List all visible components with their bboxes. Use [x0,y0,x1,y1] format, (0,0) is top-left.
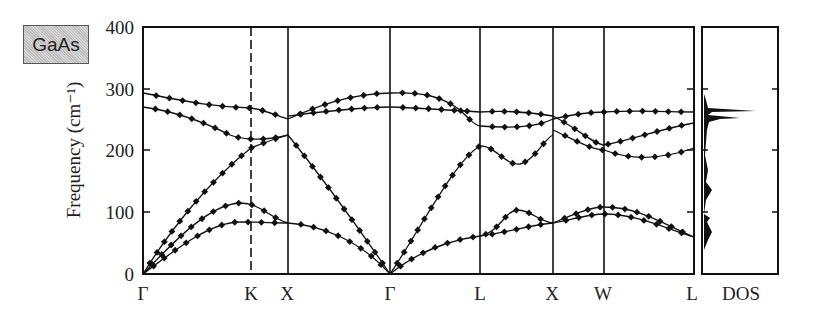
data-point-diamond [153,92,160,99]
x-label-x-1: X [280,283,294,304]
data-point-diamond [621,206,628,213]
x-label-w: W [594,283,612,304]
data-point-diamond [488,146,495,153]
data-point-diamond [260,140,267,147]
data-point-diamond [513,226,520,233]
data-point-diamond [586,143,593,150]
data-point-diamond [522,158,529,165]
data-point-diamond [538,111,545,118]
data-point-diamond [152,106,159,113]
data-point-diamond [176,112,183,119]
data-point-diamond [272,214,279,221]
y-tick-100: 100 [106,202,135,223]
data-point-diamond [361,105,368,112]
dos-label: DOS [722,283,760,304]
data-point-diamond [654,128,661,135]
x-label-gamma-2: Γ [385,283,396,304]
experimental-points [146,89,686,269]
data-point-diamond [571,125,578,132]
data-point-diamond [436,95,443,102]
data-point-diamond [526,122,533,129]
data-point-diamond [574,138,581,145]
data-point-diamond [613,108,620,115]
data-point-diamond [601,109,608,116]
data-point-diamond [218,222,225,229]
data-point-diamond [597,204,604,211]
x-label-x-2: X [545,283,559,304]
data-point-diamond [617,138,624,145]
data-point-diamond [562,113,569,120]
data-point-diamond [538,120,545,127]
data-point-diamond [537,221,544,228]
phonon-dispersion-chart: 0 100 200 300 400 Frequency (cm⁻¹) Γ K X… [0,0,817,317]
data-point-diamond [501,108,508,115]
data-point-diamond [639,108,646,115]
data-point-diamond [652,153,659,160]
y-tick-300: 300 [106,79,135,100]
data-point-diamond [374,104,381,111]
data-point-diamond [164,108,171,115]
x-label-gamma-1: Γ [138,283,149,304]
data-point-diamond [628,214,635,221]
data-point-diamond [249,202,256,209]
data-point-diamond [247,136,254,143]
data-point-diamond [501,228,508,235]
data-point-diamond [222,203,229,210]
data-point-diamond [258,219,265,226]
data-point-diamond [625,153,632,160]
data-point-diamond [373,90,380,97]
data-point-diamond [464,108,471,115]
data-point-diamond [298,221,305,228]
data-point-diamond [629,135,636,142]
data-point-diamond [206,101,213,108]
data-point-diamond [346,238,353,245]
data-point-diamond [489,108,496,115]
data-point-diamond [640,217,647,224]
data-point-diamond [457,236,464,243]
data-point-diamond [645,213,652,220]
data-point-diamond [414,227,421,234]
data-point-diamond [424,92,431,99]
y-tick-400: 400 [106,17,135,38]
data-point-diamond [513,207,520,214]
data-point-diamond [612,150,619,157]
data-point-diamond [179,97,186,104]
data-point-diamond [411,90,418,97]
data-point-diamond [438,106,445,113]
data-point-diamond [206,226,213,233]
data-point-diamond [678,108,685,115]
data-point-diamond [513,108,520,115]
dos-frame [702,27,778,274]
data-point-diamond [192,99,199,106]
data-point-diamond [432,244,439,251]
data-point-diamond [347,94,354,101]
data-point-diamond [561,119,568,126]
x-label-l-1: L [474,283,486,304]
data-point-diamond [233,104,240,111]
data-point-diamond [585,206,592,213]
plot-frame [143,27,694,274]
data-point-diamond [231,219,238,226]
data-point-diamond [588,109,595,116]
data-point-diamond [360,92,367,99]
data-point-diamond [615,212,622,219]
data-point-diamond [235,200,242,207]
data-point-diamond [482,231,489,238]
data-point-diamond [223,130,230,137]
data-point-diamond [188,115,195,122]
data-point-diamond [501,124,508,131]
data-point-diamond [323,228,330,235]
data-point-diamond [408,238,415,245]
data-point-diamond [447,100,454,107]
data-point-diamond [421,216,428,223]
data-point-diamond [525,109,532,116]
data-point-diamond [272,135,279,142]
data-point-diamond [348,106,355,113]
data-point-diamond [219,103,226,110]
data-point-diamond [470,234,477,241]
data-point-diamond [525,223,532,230]
symmetry-lines [251,27,604,274]
data-point-diamond [408,256,415,263]
data-point-diamond [638,154,645,161]
y-tick-200: 200 [106,140,135,161]
